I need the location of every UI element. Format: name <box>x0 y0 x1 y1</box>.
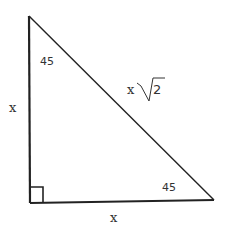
left-leg <box>29 16 30 203</box>
hypotenuse-radicand: 2 <box>153 82 161 97</box>
hypotenuse-label: x 2 <box>127 78 165 101</box>
hypotenuse-coef: x <box>127 82 135 97</box>
triangle-diagram: 45 45 x x x 2 <box>0 0 230 234</box>
hypotenuse <box>29 16 214 200</box>
bottom-leg-label: x <box>110 210 118 225</box>
right-angle-marker <box>30 187 43 203</box>
bottom-right-angle-label: 45 <box>162 181 176 194</box>
top-angle-label: 45 <box>40 55 54 68</box>
left-leg-label: x <box>9 100 17 115</box>
bottom-leg <box>30 200 214 203</box>
